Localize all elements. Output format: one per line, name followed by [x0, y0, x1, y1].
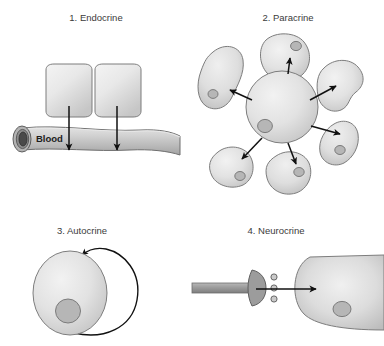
- cell-signalling-diagram: 1. Endocrine Blood 2. Paracrine: [0, 0, 384, 346]
- blood-label: Blood: [36, 133, 63, 144]
- endocrine-secretory-cell: [95, 64, 141, 117]
- synaptic-vesicle: [271, 274, 277, 280]
- nucleus: [333, 301, 351, 316]
- vessel-lumen: [19, 132, 27, 146]
- nucleus: [258, 119, 273, 132]
- nucleus: [56, 299, 81, 323]
- paracrine-central-cell: [246, 71, 318, 143]
- panel-label-paracrine: 2. Paracrine: [262, 12, 313, 23]
- nucleus: [291, 41, 302, 50]
- synaptic-vesicle: [271, 285, 277, 291]
- paracrine-neighbor-cell: [210, 147, 254, 187]
- axon-shaft: [192, 283, 254, 293]
- nucleus: [294, 168, 304, 177]
- panel-label-endocrine: 1. Endocrine: [69, 12, 122, 23]
- nucleus: [235, 172, 245, 181]
- panel-label-neurocrine: 4. Neurocrine: [247, 225, 304, 236]
- synaptic-vesicle: [271, 296, 277, 302]
- panel-label-autocrine: 3. Autocrine: [57, 225, 107, 236]
- nucleus: [335, 146, 345, 155]
- nucleus: [208, 90, 218, 99]
